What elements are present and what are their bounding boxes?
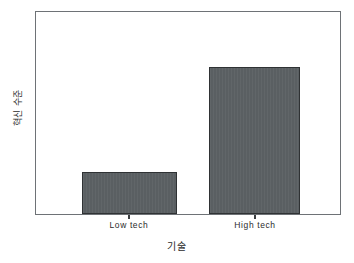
- bar-low-tech: [82, 172, 177, 214]
- bar-chart-figure: 혁신 수준 Low tech High tech 기술: [0, 0, 354, 263]
- y-axis-title-container: 혁신 수준: [0, 0, 34, 215]
- plot-frame: [35, 11, 341, 215]
- y-axis-title: 혁신 수준: [11, 89, 24, 126]
- plot-area: [36, 12, 340, 214]
- bar-high-tech: [209, 67, 301, 214]
- x-axis-tick-label-high-tech: High tech: [234, 220, 275, 230]
- x-axis-tick-low-tech: [128, 215, 130, 219]
- x-axis-tick-label-low-tech: Low tech: [110, 220, 149, 230]
- x-axis-tick-high-tech: [254, 215, 256, 219]
- x-axis-title: 기술: [0, 238, 354, 253]
